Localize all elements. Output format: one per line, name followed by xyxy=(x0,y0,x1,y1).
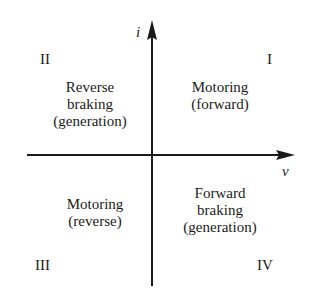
quadrant-III-line-1: Motoring xyxy=(45,196,145,213)
vertical-arrow-icon xyxy=(147,20,157,40)
quadrant-III-label: Motoring (reverse) xyxy=(45,196,145,230)
vertical-axis-label: i xyxy=(136,24,140,41)
quadrant-I-line-1: Motoring xyxy=(160,79,280,96)
quadrant-II-line-2: braking xyxy=(35,96,145,113)
quadrant-II-label: Reverse braking (generation) xyxy=(35,79,145,130)
quadrant-III-line-2: (reverse) xyxy=(45,213,145,230)
quadrant-I-line-2: (forward) xyxy=(160,96,280,113)
quadrant-IV-label: Forward braking (generation) xyxy=(165,185,275,236)
quadrant-II-line-1: Reverse xyxy=(35,79,145,96)
axes xyxy=(0,0,312,300)
quadrant-I-label: Motoring (forward) xyxy=(160,79,280,113)
quadrant-IV-line-2: braking xyxy=(165,202,275,219)
quadrant-numeral-III: III xyxy=(35,257,50,274)
quadrant-numeral-I: I xyxy=(267,51,272,68)
quadrant-numeral-II: II xyxy=(40,51,50,68)
quadrant-II-line-3: (generation) xyxy=(35,113,145,130)
horizontal-axis-label: v xyxy=(282,163,289,180)
quadrant-IV-line-3: (generation) xyxy=(165,219,275,236)
quadrant-numeral-IV: IV xyxy=(257,257,273,274)
quadrant-IV-line-1: Forward xyxy=(165,185,275,202)
